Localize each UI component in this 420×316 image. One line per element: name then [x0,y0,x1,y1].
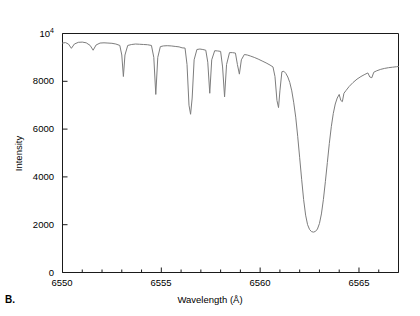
x-tick-label-6555: 6555 [138,277,184,288]
panel-label: B. [5,294,15,305]
y-axis-title: Intensity [13,114,24,194]
x-tick-label-6560: 6560 [237,277,283,288]
spectrum-plot [0,0,420,316]
y-tick-label-8000: 8000 [8,75,54,86]
figure-panel: Solar Atlas (after Delbouille et al., 19… [0,0,420,316]
y-tick-label-10000: 104 [8,27,54,39]
x-tick-label-6550: 6550 [39,277,85,288]
y-tick-label-2000: 2000 [8,219,54,230]
x-tick-label-6565: 6565 [336,277,382,288]
x-axis-title: Wavelength (Å) [0,294,420,305]
